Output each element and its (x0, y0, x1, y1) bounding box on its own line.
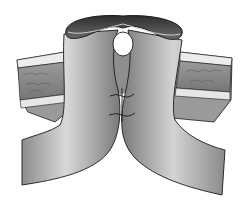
loop-opening (113, 32, 133, 56)
abdominal-wall-left (17, 52, 70, 122)
stoma-illustration (0, 0, 245, 207)
illustration-canvas (0, 0, 245, 207)
abdominal-wall-right (170, 52, 232, 122)
